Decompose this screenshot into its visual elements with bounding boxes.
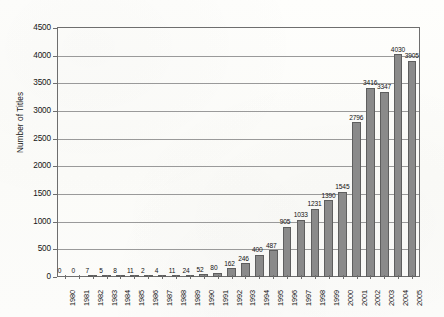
bar[interactable] xyxy=(338,192,347,277)
bar-slot: 4030 xyxy=(394,28,403,277)
x-axis-tick-label: 1997 xyxy=(304,290,313,306)
bar-slot: 246 xyxy=(241,28,250,277)
x-axis-tickmark xyxy=(329,275,330,279)
bar-slot: 11 xyxy=(130,28,139,277)
x-axis-tickmark xyxy=(412,275,413,279)
bar-slot: 7 xyxy=(88,28,97,277)
x-axis-tick-label: 2003 xyxy=(387,290,396,306)
bar-value-label: 24 xyxy=(183,267,190,274)
x-axis-tickmark xyxy=(218,275,219,279)
bar-slot: 3416 xyxy=(366,28,375,277)
bar-value-label: 5 xyxy=(99,267,103,274)
bar-slot: 1545 xyxy=(338,28,347,277)
x-axis-tick-label: 1998 xyxy=(318,290,327,306)
y-axis-tickmark xyxy=(53,249,57,250)
bar[interactable] xyxy=(269,250,278,277)
x-axis-tick-label: 1990 xyxy=(207,290,216,306)
bar-value-label: 3905 xyxy=(405,52,419,59)
bar-value-label: 52 xyxy=(196,266,203,273)
bar-value-label: 905 xyxy=(280,218,291,225)
bar-value-label: 2796 xyxy=(349,114,363,121)
x-axis-tick-label: 2004 xyxy=(401,290,410,306)
x-axis-tick-label: 2002 xyxy=(373,290,382,306)
bar-value-label: 3416 xyxy=(363,79,377,86)
y-axis-tickmark xyxy=(53,28,57,29)
bar-slot: 905 xyxy=(283,28,292,277)
bar-slot: 3905 xyxy=(408,28,417,277)
bar-slot: 0 xyxy=(75,28,84,277)
bar-slot: 400 xyxy=(255,28,264,277)
bar-value-label: 8 xyxy=(113,267,117,274)
bar[interactable] xyxy=(408,61,417,277)
x-axis-tick-label: 1999 xyxy=(332,290,341,306)
x-axis-tickmark xyxy=(357,275,358,279)
x-axis-tickmark xyxy=(148,275,149,279)
x-axis-tick-label: 1985 xyxy=(137,290,146,306)
bar[interactable] xyxy=(283,227,292,277)
x-axis-tickmark xyxy=(232,275,233,279)
x-axis-tickmark xyxy=(259,275,260,279)
y-axis-tickmark xyxy=(53,277,57,278)
y-axis-tick-label: 500 xyxy=(38,244,51,253)
x-axis-tick-label: 1992 xyxy=(235,290,244,306)
bar-slot: 4 xyxy=(158,28,167,277)
bar[interactable] xyxy=(297,220,306,277)
bar-slot: 24 xyxy=(186,28,195,277)
y-axis-tick-label: 4500 xyxy=(33,23,51,32)
x-axis-tickmark xyxy=(176,275,177,279)
y-axis-tick-label: 1500 xyxy=(33,189,51,198)
y-axis-tickmark xyxy=(53,166,57,167)
x-axis-tickmark xyxy=(204,275,205,279)
x-axis-tick-label: 1993 xyxy=(248,290,257,306)
bar-slot: 52 xyxy=(199,28,208,277)
bar[interactable] xyxy=(394,54,403,277)
bar[interactable] xyxy=(255,255,264,277)
y-axis-tick-label: 4000 xyxy=(33,50,51,59)
x-axis-tick-label: 1988 xyxy=(179,290,188,306)
bar-value-label: 1231 xyxy=(308,200,322,207)
x-axis-tick-label: 1995 xyxy=(276,290,285,306)
bar-value-label: 0 xyxy=(72,267,76,274)
y-axis-tick-label: 3500 xyxy=(33,78,51,87)
bar[interactable] xyxy=(324,200,333,277)
x-axis-tickmark xyxy=(245,275,246,279)
bar-value-label: 400 xyxy=(252,246,263,253)
x-axis-tick-labels: 1980198119821983198419851986198719881989… xyxy=(58,279,419,317)
x-axis-tickmark xyxy=(134,275,135,279)
bar-slot: 162 xyxy=(227,28,236,277)
bar-slot: 1231 xyxy=(311,28,320,277)
x-axis-tick-label: 1984 xyxy=(123,290,132,306)
x-axis-tickmark xyxy=(120,275,121,279)
bar-slot: 2796 xyxy=(352,28,361,277)
bar-slot: 0 xyxy=(61,28,70,277)
x-axis-tick-label: 1987 xyxy=(165,290,174,306)
bar-value-label: 246 xyxy=(238,255,249,262)
bar[interactable] xyxy=(311,209,320,277)
bar[interactable] xyxy=(380,92,389,277)
x-axis-tick-label: 2001 xyxy=(360,290,369,306)
bar-value-label: 162 xyxy=(224,260,235,267)
bar-value-label: 1545 xyxy=(335,183,349,190)
bar-chart: Number of Titles 05001000150020002500300… xyxy=(0,0,444,317)
x-axis-tickmark xyxy=(287,275,288,279)
bar[interactable] xyxy=(366,88,375,277)
x-axis-tick-label: 2000 xyxy=(346,290,355,306)
bar-slot: 80 xyxy=(213,28,222,277)
x-axis-tick-label: 1986 xyxy=(151,290,160,306)
bar-value-label: 487 xyxy=(266,242,277,249)
y-axis-tick-label: 3000 xyxy=(33,106,51,115)
x-axis-tickmark xyxy=(190,275,191,279)
bar-value-label: 1390 xyxy=(321,192,335,199)
y-axis-tickmark xyxy=(53,56,57,57)
bar-slot: 2 xyxy=(144,28,153,277)
x-axis-tick-label: 2005 xyxy=(415,290,424,306)
y-axis-tick-labels: 050010001500200025003000350040004500 xyxy=(0,27,55,277)
y-axis-tick-label: 1000 xyxy=(33,216,51,225)
x-axis-tickmark xyxy=(384,275,385,279)
bar-value-label: 11 xyxy=(127,267,134,274)
bar-value-label: 1033 xyxy=(294,211,308,218)
bar[interactable] xyxy=(352,122,361,277)
x-axis-tickmark xyxy=(273,275,274,279)
x-axis-tick-label: 1982 xyxy=(96,290,105,306)
bar-slot: 1033 xyxy=(297,28,306,277)
